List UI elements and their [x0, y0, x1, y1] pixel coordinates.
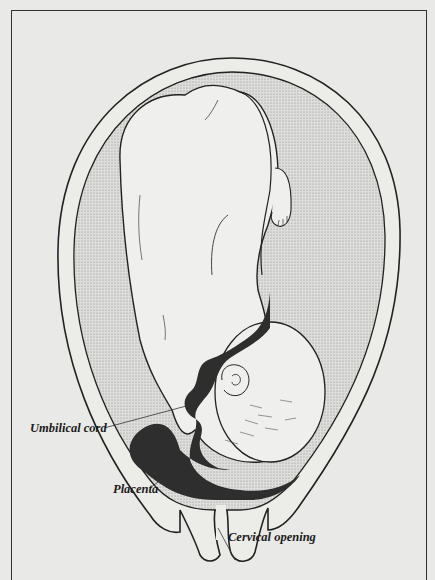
label-cervical-opening: Cervical opening	[228, 530, 316, 545]
label-umbilical-cord: Umbilical cord	[30, 421, 107, 436]
label-placenta: Placenta	[113, 482, 158, 497]
